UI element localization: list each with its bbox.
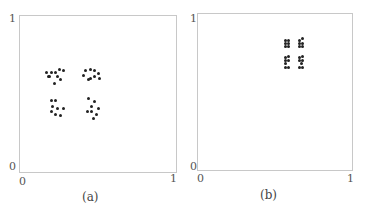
data-point <box>97 72 100 75</box>
x-tick-1: 1 <box>347 173 354 184</box>
y-tick-1: 1 <box>190 13 197 24</box>
data-point <box>50 99 53 102</box>
data-point <box>45 71 48 74</box>
y-tick-0: 0 <box>190 161 197 172</box>
panel-b: 1 0 0 1 (b) <box>0 0 368 211</box>
plot-area-b <box>197 13 353 171</box>
data-point <box>89 68 92 71</box>
data-point <box>301 66 304 69</box>
data-point <box>95 113 98 116</box>
data-point <box>86 110 89 113</box>
data-point <box>58 68 61 71</box>
data-point <box>98 77 101 80</box>
data-point <box>50 71 53 74</box>
data-point <box>50 110 53 113</box>
data-point <box>90 110 93 113</box>
data-point <box>53 82 56 85</box>
x-tick-0: 0 <box>197 173 204 184</box>
caption-b: (b) <box>260 188 277 202</box>
data-point <box>56 107 59 110</box>
data-point <box>62 107 65 110</box>
data-point <box>97 107 100 110</box>
data-point <box>301 55 304 58</box>
